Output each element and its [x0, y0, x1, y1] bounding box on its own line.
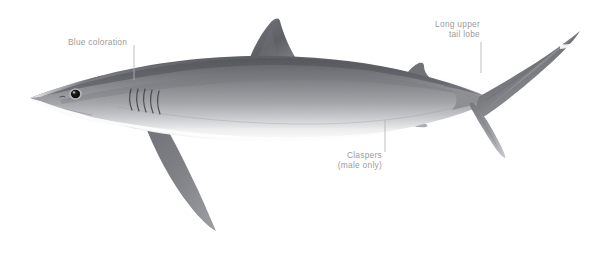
annotation-long-upper-tail-lobe: Long uppertail lobe — [435, 19, 480, 39]
annotation-blue-coloration: Blue coloration — [68, 37, 127, 47]
annotation-line-1: Long upper — [435, 19, 480, 29]
annotation-line-1: Claspers — [347, 150, 382, 160]
annotation-claspers: Claspers(male only) — [338, 150, 382, 170]
annotation-line-2: (male only) — [338, 160, 382, 170]
annotation-line-2: tail lobe — [449, 29, 480, 39]
illustration-canvas: Blue coloration Long uppertail lobe Clas… — [0, 0, 602, 262]
eye — [70, 89, 81, 99]
caudal-fin-upper-lobe — [476, 31, 580, 117]
